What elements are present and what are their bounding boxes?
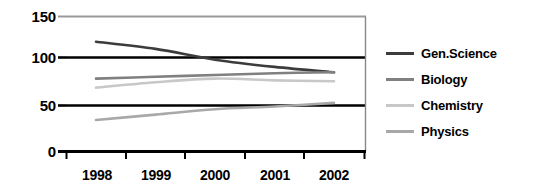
legend-item-gen-science[interactable]: Gen.Science	[386, 40, 535, 66]
line-swatch-icon	[386, 78, 414, 81]
line-chart: 150 100 50 0 1998 1999 2000 2001 2002 Ge…	[0, 0, 535, 195]
x-tick-label-1999: 1999	[141, 168, 171, 182]
x-tick-label-2000: 2000	[200, 168, 230, 182]
legend-item-physics[interactable]: Physics	[386, 118, 535, 144]
chart-legend: Gen.Science Biology Chemistry Physics	[386, 40, 535, 144]
x-tick-label-1998: 1998	[82, 168, 112, 182]
legend-label-physics: Physics	[421, 124, 469, 139]
x-tick-label-2001: 2001	[260, 168, 290, 182]
legend-label-biology: Biology	[421, 72, 467, 87]
x-tick-label-2002: 2002	[319, 168, 349, 182]
line-swatch-icon	[386, 52, 414, 55]
line-swatch-icon	[386, 104, 414, 107]
legend-item-chemistry[interactable]: Chemistry	[386, 92, 535, 118]
legend-item-biology[interactable]: Biology	[386, 66, 535, 92]
legend-label-chemistry: Chemistry	[421, 98, 483, 113]
legend-label-gen-science: Gen.Science	[421, 46, 497, 61]
line-swatch-icon	[386, 130, 414, 133]
